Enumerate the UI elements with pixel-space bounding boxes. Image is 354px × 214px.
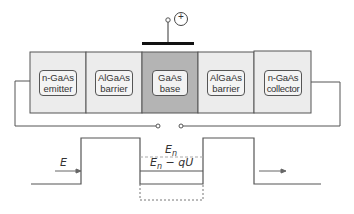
label-barrier-right: AlGaAs barrier	[207, 70, 245, 96]
diagram-canvas	[0, 0, 354, 214]
label-barrier-left: AlGaAs barrier	[95, 70, 133, 96]
transmitted-arrowhead-icon	[281, 169, 286, 173]
base-role: base	[154, 83, 186, 94]
barrier-right-material: AlGaAs	[209, 72, 243, 83]
shifted-level-symbol: E	[150, 156, 157, 169]
label-collector: n-GaAs collector	[264, 70, 302, 96]
shifted-level-suffix: − qU	[162, 156, 193, 169]
shifted-level-label: En − qU	[150, 156, 193, 171]
barrier-left-role: barrier	[97, 83, 131, 94]
original-well-outline	[140, 184, 203, 200]
label-emitter: n-GaAs emitter	[39, 70, 77, 96]
gate-terminal-node	[166, 18, 170, 22]
level-En-symbol: E	[165, 143, 172, 156]
collector-role: collector	[266, 83, 300, 94]
base-material: GaAs	[154, 72, 186, 83]
barrier-right-role: barrier	[209, 83, 243, 94]
label-base: GaAs base	[152, 70, 188, 96]
plus-sign: +	[177, 11, 185, 25]
gate-contact	[142, 13, 194, 46]
incident-energy-label: E	[60, 156, 67, 169]
emitter-terminal-node	[156, 124, 160, 128]
collector-material: n-GaAs	[266, 72, 300, 83]
collector-terminal-node	[179, 124, 183, 128]
emitter-role: emitter	[41, 83, 75, 94]
barrier-left-material: AlGaAs	[97, 72, 131, 83]
emitter-material: n-GaAs	[41, 72, 75, 83]
incident-arrowhead-icon	[76, 169, 81, 173]
gate-electrode-bar	[142, 42, 194, 45]
